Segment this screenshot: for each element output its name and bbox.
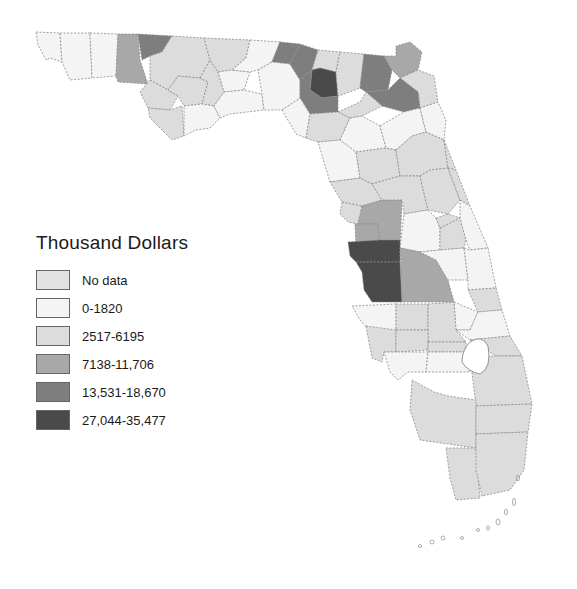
legend-swatch: [36, 354, 70, 374]
legend-item-range-3: 7138-11,706: [36, 350, 188, 378]
legend-label: 7138-11,706: [82, 357, 154, 372]
legend: Thousand Dollars No data 0-1820 2517-619…: [36, 232, 188, 434]
legend-item-range-1: 0-1820: [36, 294, 188, 322]
legend-item-range-2: 2517-6195: [36, 322, 188, 350]
county: [36, 32, 62, 62]
legend-label: 27,044-35,477: [82, 413, 166, 428]
legend-label: 2517-6195: [82, 329, 144, 344]
legend-swatch: [36, 298, 70, 318]
legend-item-range-5: 27,044-35,477: [36, 406, 188, 434]
legend-swatch: [36, 270, 70, 290]
legend-swatch: [36, 410, 70, 430]
legend-swatch: [36, 382, 70, 402]
legend-label: No data: [82, 273, 128, 288]
legend-label: 13,531-18,670: [82, 385, 166, 400]
legend-title: Thousand Dollars: [36, 232, 188, 254]
legend-item-no-data: No data: [36, 266, 188, 294]
legend-item-range-4: 13,531-18,670: [36, 378, 188, 406]
legend-label: 0-1820: [82, 301, 122, 316]
legend-swatch: [36, 326, 70, 346]
